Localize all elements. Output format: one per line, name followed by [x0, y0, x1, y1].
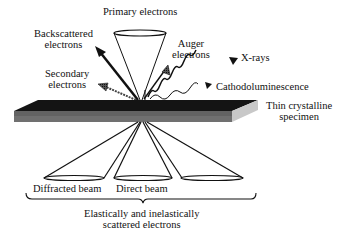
diagram-canvas: Primary electrons Backscattered electron… — [0, 0, 348, 241]
label-scattered-line2: scattered electrons — [84, 219, 199, 230]
scattered-electrons-bracket — [26, 193, 256, 203]
label-specimen-line2: specimen — [266, 111, 332, 122]
label-xrays: X-rays — [241, 52, 270, 63]
label-scattered-line1: Elastically and inelastically — [84, 208, 199, 219]
label-auger-electrons: Auger electrons — [172, 38, 210, 60]
label-secondary-line1: Secondary — [45, 68, 89, 79]
label-secondary-electrons: Secondary electrons — [45, 68, 89, 90]
label-backscattered-electrons: Backscattered electrons — [34, 28, 93, 50]
label-backscattered-line2: electrons — [34, 39, 93, 50]
label-auger-line2: electrons — [172, 49, 210, 60]
label-scattered-electrons: Elastically and inelastically scattered … — [84, 208, 199, 230]
label-direct-beam: Direct beam — [116, 183, 168, 194]
label-specimen-line1: Thin crystalline — [266, 100, 332, 111]
specimen-slab — [14, 100, 258, 122]
diffracted-beam-cone-left — [44, 122, 140, 181]
label-auger-line1: Auger — [172, 38, 210, 49]
diffracted-beam-cone-right — [145, 122, 243, 181]
auger-arrow — [144, 65, 170, 99]
label-thin-crystalline-specimen: Thin crystalline specimen — [266, 100, 332, 122]
label-backscattered-line1: Backscattered — [34, 28, 93, 39]
label-primary-electrons: Primary electrons — [103, 6, 177, 17]
cathodoluminescence-arrow — [150, 82, 212, 99]
label-secondary-line2: electrons — [45, 79, 89, 90]
label-diffracted-beam: Diffracted beam — [33, 183, 101, 194]
label-cathodoluminescence: Cathodoluminescence — [216, 81, 309, 92]
